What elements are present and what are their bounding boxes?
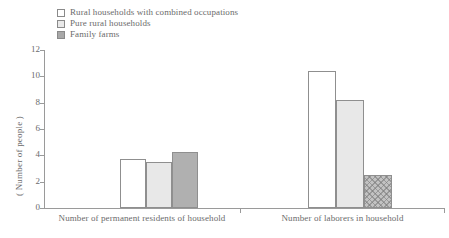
bar-chart: Rural households with combined occupatio… — [0, 0, 449, 238]
y-tick-0: 0 — [44, 208, 45, 209]
bar-group1-rural-combined — [120, 159, 146, 208]
bars-layer — [44, 50, 445, 208]
bar-group2-family-farms — [364, 175, 392, 208]
y-tick-label: 2 — [26, 175, 40, 187]
bar-group2-rural-combined — [308, 71, 336, 208]
bar-group1-pure-rural — [146, 162, 172, 208]
legend-item-family-farms: Family farms — [57, 29, 307, 40]
legend-swatch-icon — [57, 9, 65, 17]
y-tick-label: 8 — [26, 96, 40, 108]
legend-swatch-icon — [57, 31, 65, 39]
y-tick-label: 6 — [26, 122, 40, 134]
y-tick-label: 0 — [26, 201, 40, 213]
plot-area: 12 10 8 6 4 2 0 — [44, 50, 445, 208]
y-axis-title-wrap: ( Number of people ) — [0, 48, 18, 198]
y-axis-title: ( Number of people ) — [14, 116, 24, 196]
x-axis-line — [44, 208, 445, 209]
chart-legend: Rural households with combined occupatio… — [57, 7, 307, 40]
legend-item-label: Rural households with combined occupatio… — [70, 7, 238, 18]
y-tick-label: 4 — [26, 148, 40, 160]
legend-item-rural-combined: Rural households with combined occupatio… — [57, 7, 307, 18]
y-tick-label: 12 — [26, 43, 40, 55]
legend-item-label: Family farms — [70, 29, 119, 40]
bar-group2-pure-rural — [336, 100, 364, 208]
x-axis-category-label-laborers: Number of laborers in household — [240, 213, 445, 223]
x-axis-category-label-permanent-residents: Number of permanent residents of househo… — [44, 213, 240, 223]
legend-swatch-icon — [57, 20, 65, 28]
bar-group1-family-farms — [172, 152, 198, 208]
legend-item-pure-rural: Pure rural households — [57, 18, 307, 29]
y-tick-label: 10 — [26, 69, 40, 81]
legend-item-label: Pure rural households — [70, 18, 151, 29]
